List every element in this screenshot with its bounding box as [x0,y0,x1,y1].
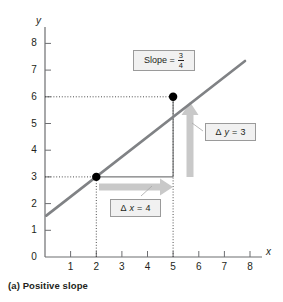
delta-y-callout: Δy = 3 [205,123,256,141]
x-axis-label: x [266,247,271,257]
y-tick-label-7: 7 [28,65,40,75]
x-tick-label-1: 1 [65,262,77,272]
delta-x-arrow [99,179,173,196]
delta-x-variable: x [130,204,135,213]
x-tick-label-7: 7 [218,262,230,272]
delta-y-variable: y [225,128,230,137]
data-point-6-6 [169,93,177,101]
delta-y-arrow [182,102,199,177]
rise-run-connectors [96,97,173,177]
plot-canvas [0,0,283,302]
leader-delta-y [192,123,203,131]
y-tick-label-1: 1 [28,225,40,235]
delta-y-symbol: Δ [216,128,222,137]
x-tick-label-4: 4 [142,262,154,272]
y-axis-label: y [36,16,41,26]
delta-x-equals: = [137,204,142,213]
figure-caption: (a) Positive slope [8,280,88,291]
x-tick-label-3: 3 [116,262,128,272]
slope-denominator: 4 [178,61,184,69]
slope-fraction: 3 4 [178,52,184,69]
y-tick-label-2: 2 [28,199,40,209]
delta-y-value: 3 [240,128,245,137]
y-tick-label-3: 3 [28,172,40,182]
delta-x-value: 4 [145,204,150,213]
x-tick-label-5: 5 [167,262,179,272]
delta-x-symbol: Δ [121,204,127,213]
slope-callout-label: Slope = [144,56,175,65]
slope-numerator: 3 [178,52,184,61]
delta-x-callout: Δx = 4 [110,199,161,217]
delta-y-equals: = [232,128,237,137]
x-tick-marks [71,251,250,257]
y-tick-label-5: 5 [28,119,40,129]
data-point-2-3 [92,173,100,181]
y-tick-label-8: 8 [28,38,40,48]
x-tick-label-8: 8 [244,262,256,272]
y-tick-label-6: 6 [28,92,40,102]
slope-figure: y x 0 1 2 3 4 5 6 7 8 1 2 3 4 5 6 7 8 Sl… [0,0,283,302]
origin-tick-label: 0 [28,252,40,262]
x-tick-label-2: 2 [90,262,102,272]
y-tick-marks [45,43,51,230]
x-tick-label-6: 6 [193,262,205,272]
y-tick-label-4: 4 [28,145,40,155]
slope-callout: Slope = 3 4 [133,50,195,71]
